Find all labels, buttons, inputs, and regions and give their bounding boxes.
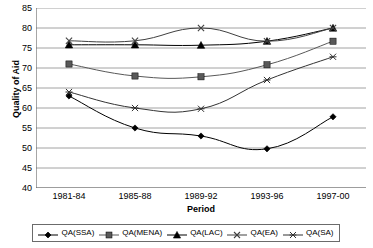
square-marker — [106, 232, 112, 238]
asterisk-marker — [283, 227, 303, 239]
y-tick-label: 65 — [12, 84, 32, 93]
y-tick-label: 80 — [12, 24, 32, 33]
square-marker — [198, 74, 204, 80]
diamond-marker — [45, 232, 51, 238]
y-tick-label: 60 — [12, 104, 32, 113]
diamond-marker — [198, 133, 204, 139]
diamond-marker — [264, 146, 270, 152]
x-marker — [227, 227, 247, 239]
series-qasa — [66, 54, 337, 113]
square-marker — [330, 38, 336, 44]
legend-item[interactable]: QA(LAC) — [167, 227, 222, 239]
square-marker — [99, 227, 119, 239]
legend-label: QA(SSA) — [61, 229, 94, 237]
square-marker — [132, 73, 138, 79]
legend-label: QA(LAC) — [190, 229, 222, 237]
series-line — [69, 57, 333, 112]
y-axis-tick-labels: 85807570656055504540 — [10, 0, 32, 248]
asterisk-marker — [132, 105, 139, 111]
x-axis-title: Period — [36, 204, 366, 214]
asterisk-marker — [290, 232, 297, 238]
y-tick-label: 40 — [12, 184, 32, 193]
series-line — [69, 96, 333, 150]
legend-label: QA(SA) — [306, 229, 334, 237]
y-tick-label: 50 — [12, 144, 32, 153]
line-chart: Quality of Aid 85807570656055504540 1981… — [0, 0, 373, 248]
x-axis-tick-labels: 1981-841985-881989-921993-961997-00 — [36, 191, 366, 205]
legend-item[interactable]: QA(SSA) — [38, 227, 94, 239]
legend-item[interactable]: QA(SA) — [283, 227, 334, 239]
legend-item[interactable]: QA(EA) — [227, 227, 278, 239]
y-tick-label: 75 — [12, 44, 32, 53]
y-tick-label: 85 — [12, 4, 32, 13]
series-qassa — [66, 93, 336, 152]
diamond-marker — [38, 227, 58, 239]
square-marker — [66, 61, 72, 67]
legend-label: QA(MENA) — [122, 229, 162, 237]
series-line — [69, 28, 333, 42]
asterisk-marker — [330, 54, 337, 60]
asterisk-marker — [198, 106, 205, 112]
plot-svg — [36, 8, 366, 188]
asterisk-marker — [264, 77, 271, 83]
square-marker — [264, 62, 270, 68]
y-tick-label: 45 — [12, 164, 32, 173]
triangle-marker — [167, 227, 187, 239]
legend-item[interactable]: QA(MENA) — [99, 227, 162, 239]
x-tick-label: 1981-84 — [39, 191, 99, 201]
chart-legend: QA(SSA)QA(MENA)QA(LAC)QA(EA)QA(SA) — [32, 224, 340, 242]
plot-area — [36, 8, 366, 188]
legend-label: QA(EA) — [250, 229, 278, 237]
x-tick-label: 1985-88 — [105, 191, 165, 201]
y-tick-label: 70 — [12, 64, 32, 73]
x-tick-label: 1989-92 — [171, 191, 231, 201]
diamond-marker — [330, 114, 336, 120]
diamond-marker — [132, 125, 138, 131]
x-tick-label: 1997-00 — [303, 191, 363, 201]
x-tick-label: 1993-96 — [237, 191, 297, 201]
y-tick-label: 55 — [12, 124, 32, 133]
